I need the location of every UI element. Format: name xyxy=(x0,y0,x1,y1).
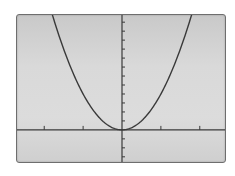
axes xyxy=(17,15,226,163)
plot-area xyxy=(17,15,226,163)
graph-screen xyxy=(16,14,226,163)
